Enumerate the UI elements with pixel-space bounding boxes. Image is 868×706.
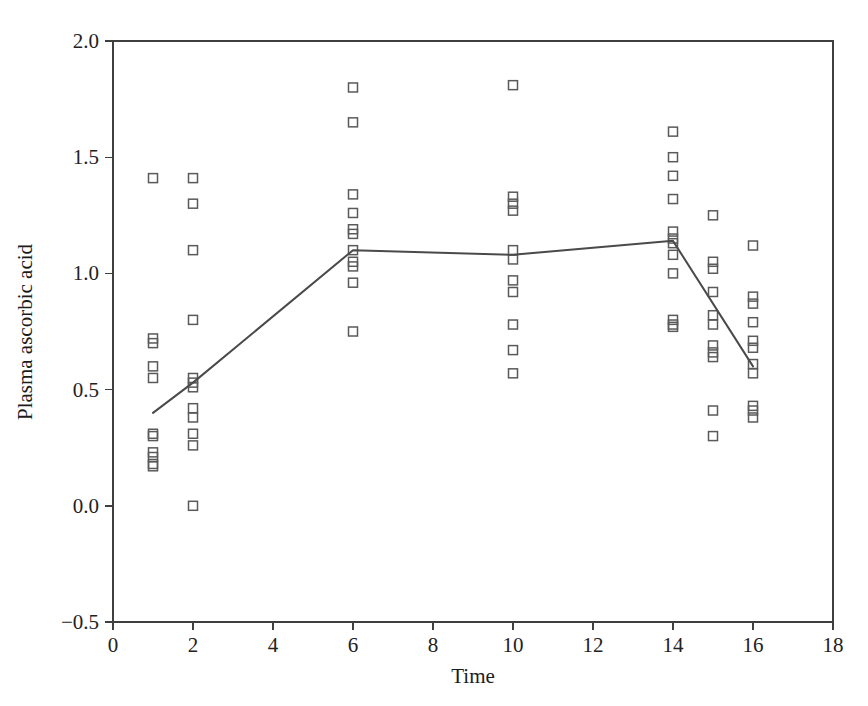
axis-ticks: [105, 41, 833, 630]
x-tick-label: 6: [348, 633, 359, 657]
scatter-point: [189, 501, 198, 510]
scatter-plot-svg: −0.50.00.51.01.52.0024681012141618 Time …: [0, 0, 868, 706]
scatter-point: [669, 250, 678, 259]
scatter-point: [709, 311, 718, 320]
plot-frame: [113, 41, 833, 622]
x-tick-label: 14: [663, 633, 685, 657]
scatter-point: [349, 83, 358, 92]
scatter-point: [189, 315, 198, 324]
scatter-point: [709, 287, 718, 296]
scatter-point: [189, 413, 198, 422]
y-tick-label: 1.5: [73, 145, 99, 169]
scatter-point: [149, 174, 158, 183]
scatter-point: [749, 318, 758, 327]
data-markers: [149, 81, 758, 511]
scatter-point: [349, 190, 358, 199]
scatter-point: [709, 320, 718, 329]
y-tick-label: −0.5: [61, 610, 99, 634]
scatter-point: [669, 195, 678, 204]
scatter-point: [709, 406, 718, 415]
scatter-point: [709, 211, 718, 220]
scatter-point: [509, 369, 518, 378]
scatter-point: [749, 241, 758, 250]
x-tick-label: 2: [188, 633, 199, 657]
scatter-point: [669, 153, 678, 162]
scatter-point: [749, 369, 758, 378]
scatter-point: [509, 255, 518, 264]
scatter-point: [189, 174, 198, 183]
x-tick-label: 4: [268, 633, 279, 657]
x-tick-label: 0: [108, 633, 119, 657]
y-tick-label: 0.0: [73, 494, 99, 518]
y-axis-label: Plasma ascorbic acid: [13, 243, 37, 420]
trend-line: [153, 241, 753, 413]
x-tick-label: 18: [823, 633, 844, 657]
scatter-point: [509, 287, 518, 296]
scatter-point: [509, 320, 518, 329]
scatter-point: [189, 429, 198, 438]
chart-figure: −0.50.00.51.01.52.0024681012141618 Time …: [0, 0, 868, 706]
scatter-point: [189, 246, 198, 255]
x-axis-label: Time: [451, 664, 495, 688]
scatter-point: [149, 429, 158, 438]
scatter-point: [189, 199, 198, 208]
scatter-point: [149, 362, 158, 371]
scatter-point: [669, 127, 678, 136]
x-tick-label: 10: [503, 633, 524, 657]
scatter-point: [149, 462, 158, 471]
scatter-point: [189, 404, 198, 413]
scatter-point: [349, 327, 358, 336]
scatter-point: [189, 441, 198, 450]
scatter-point: [509, 346, 518, 355]
scatter-point: [669, 269, 678, 278]
scatter-point: [349, 208, 358, 217]
y-tick-label: 0.5: [73, 378, 99, 402]
mean-trend-path: [153, 241, 753, 413]
scatter-point: [669, 171, 678, 180]
scatter-point: [149, 432, 158, 441]
scatter-point: [349, 118, 358, 127]
x-tick-label: 16: [743, 633, 764, 657]
scatter-point: [349, 278, 358, 287]
axis-tick-labels: −0.50.00.51.01.52.0024681012141618: [61, 29, 844, 657]
scatter-point: [149, 373, 158, 382]
scatter-point: [509, 81, 518, 90]
y-tick-label: 1.0: [73, 261, 99, 285]
scatter-point: [709, 432, 718, 441]
scatter-point: [509, 276, 518, 285]
x-tick-label: 12: [583, 633, 604, 657]
scatter-point: [509, 246, 518, 255]
y-tick-label: 2.0: [73, 29, 99, 53]
x-tick-label: 8: [428, 633, 439, 657]
